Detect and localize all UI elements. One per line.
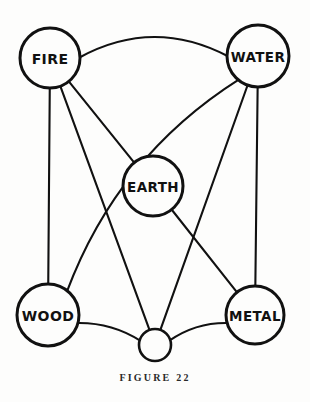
node-water[interactable]: WATER — [227, 25, 289, 87]
node-wood[interactable]: WOOD — [17, 284, 79, 346]
edge-water-metal — [255, 86, 257, 287]
node-label-earth: EARTH — [127, 179, 179, 195]
node-metal[interactable]: METAL — [226, 286, 284, 344]
figure-container: FIREWATEREARTHWOODMETAL FIGURE 22 — [0, 0, 310, 402]
edge-fire-wood — [48, 87, 50, 285]
edge-wood-node6 — [77, 323, 141, 341]
node-circle-node6[interactable] — [139, 329, 171, 361]
five-elements-diagram: FIREWATEREARTHWOODMETAL — [0, 0, 310, 402]
edge-earth-metal — [171, 209, 238, 293]
node-label-water: WATER — [231, 49, 286, 65]
node-label-metal: METAL — [229, 308, 281, 324]
node-node6[interactable] — [139, 329, 171, 361]
node-fire[interactable]: FIRE — [20, 28, 80, 88]
edge-fire-water — [79, 37, 228, 58]
edge-fire-earth — [68, 81, 135, 164]
edge-metal-node6 — [169, 323, 228, 341]
node-earth[interactable]: EARTH — [123, 156, 183, 216]
figure-caption: FIGURE 22 — [0, 372, 310, 383]
node-label-fire: FIRE — [32, 51, 69, 67]
node-label-wood: WOOD — [22, 308, 74, 324]
nodes-layer: FIREWATEREARTHWOODMETAL — [17, 25, 289, 361]
